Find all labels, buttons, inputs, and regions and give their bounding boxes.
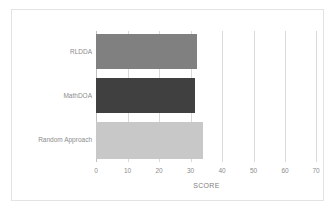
gridline-40 bbox=[222, 31, 223, 162]
bar-mathdoa[interactable] bbox=[96, 78, 195, 113]
x-axis-ticks: 0 10 20 30 40 50 60 70 bbox=[96, 166, 317, 176]
xtick-10: 10 bbox=[116, 166, 140, 175]
plot-area bbox=[96, 31, 317, 162]
xtick-70: 70 bbox=[304, 166, 328, 175]
xtick-0: 0 bbox=[84, 166, 108, 175]
category-label-rlda: RLDDA bbox=[70, 48, 92, 56]
x-axis-title: SCORE bbox=[96, 182, 317, 189]
bar-rlda[interactable] bbox=[96, 34, 197, 69]
gridline-50 bbox=[254, 31, 255, 162]
xtick-40: 40 bbox=[210, 166, 234, 175]
xtick-60: 60 bbox=[273, 166, 297, 175]
category-labels: RLDDA MathDOA Random Approach bbox=[12, 31, 92, 162]
xtick-50: 50 bbox=[242, 166, 266, 175]
chart-frame: RLDDA MathDOA Random Approach 0 10 20 30… bbox=[11, 9, 324, 201]
bar-random[interactable] bbox=[96, 122, 203, 159]
xtick-30: 30 bbox=[179, 166, 203, 175]
gridline-60 bbox=[285, 31, 286, 162]
category-label-mathdoa: MathDOA bbox=[63, 92, 92, 100]
gridline-70 bbox=[316, 31, 317, 162]
category-label-random: Random Approach bbox=[38, 136, 92, 144]
xtick-20: 20 bbox=[147, 166, 171, 175]
